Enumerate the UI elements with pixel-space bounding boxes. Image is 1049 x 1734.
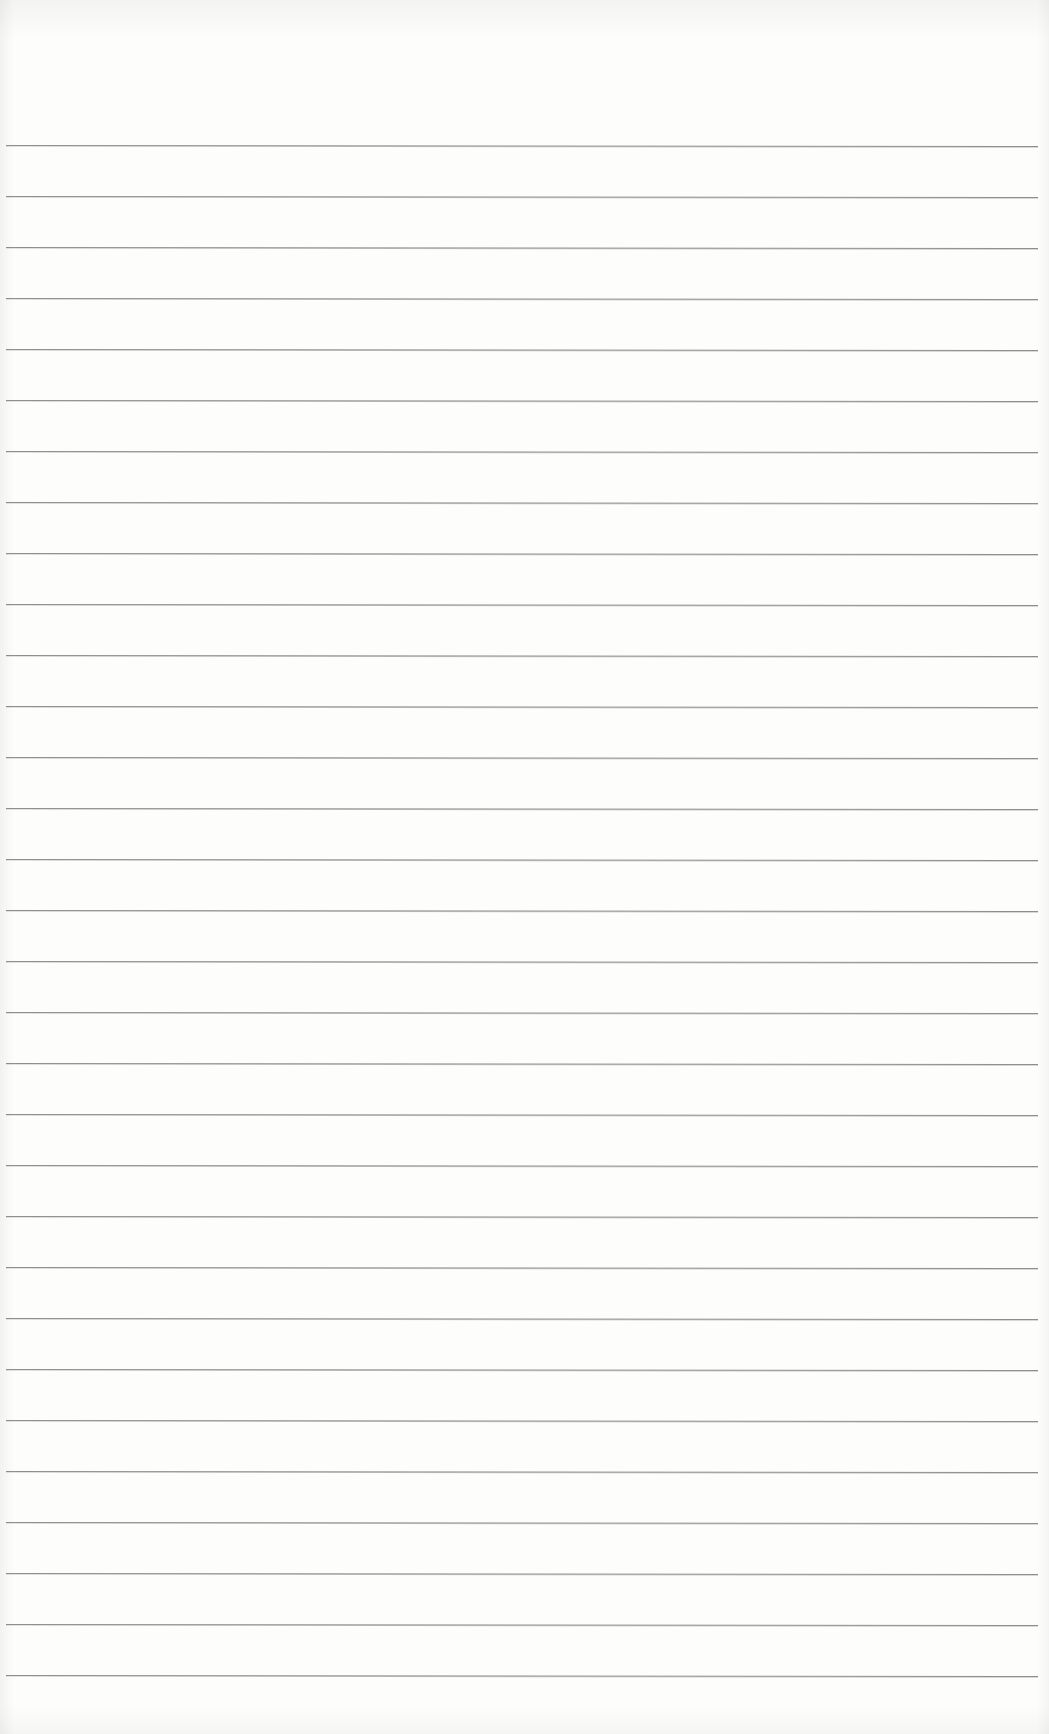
ruled-line (6, 349, 1038, 351)
ruled-line (6, 553, 1038, 555)
ruled-line (6, 1675, 1038, 1677)
ruled-line (6, 1165, 1038, 1167)
ruled-line (6, 451, 1038, 453)
ruled-line (6, 604, 1038, 606)
ruled-line (6, 247, 1038, 249)
ruled-line (6, 808, 1038, 810)
ruled-line (6, 1063, 1038, 1065)
ruled-line (6, 910, 1038, 912)
ruled-line (6, 145, 1038, 147)
ruled-line (6, 1318, 1038, 1320)
ruled-line (6, 706, 1038, 708)
ruled-line (6, 1267, 1038, 1269)
lined-paper-sheet (0, 0, 1049, 1734)
ruled-line (6, 1420, 1038, 1422)
ruled-line (6, 859, 1038, 861)
ruled-line (6, 1471, 1038, 1473)
ruled-line (6, 1114, 1038, 1116)
ruled-line (6, 400, 1038, 402)
ruled-line (6, 1216, 1038, 1218)
ruled-line (6, 1522, 1038, 1524)
ruled-line (6, 1012, 1038, 1014)
ruled-line (6, 655, 1038, 657)
ruled-line (6, 961, 1038, 963)
ruled-line (6, 1573, 1038, 1575)
ruled-line (6, 1624, 1038, 1626)
ruled-line (6, 196, 1038, 198)
ruled-line (6, 757, 1038, 759)
ruled-line (6, 298, 1038, 300)
ruled-line (6, 1369, 1038, 1371)
ruled-line (6, 502, 1038, 504)
